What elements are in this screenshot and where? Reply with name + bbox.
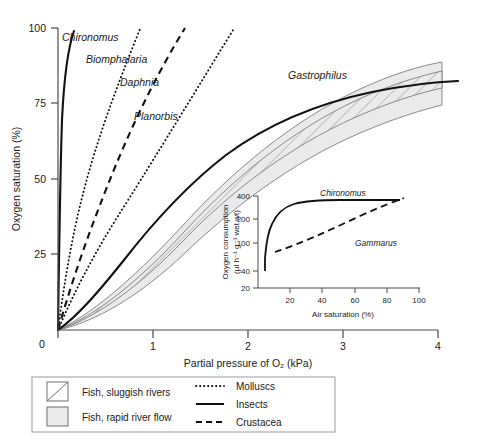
main-x-axis-label: Partial pressure of O₂ (kPa) (184, 357, 312, 369)
legend-swatch-fish-rapid (47, 407, 68, 426)
inset-curve-label-chironomus: Chironomus (320, 188, 367, 198)
inset-y-label-20: 20 (241, 284, 250, 293)
x-tick-label-4: 4 (435, 340, 441, 352)
curve-label-biomphalaria: Biomphalaria (86, 53, 147, 65)
inset-x-axis-label: Air saturation (%) (312, 310, 374, 319)
inset-x-label-100: 100 (412, 296, 426, 305)
inset-x-label-60: 60 (351, 296, 360, 305)
inset-y-label-40: 40 (241, 267, 250, 276)
x-tick-label-0: 0 (39, 338, 45, 350)
inset-y-label-400: 400 (237, 192, 251, 201)
inset-x-label-20: 20 (286, 296, 295, 305)
curve-label-gastrophilus: Gastrophilus (288, 69, 348, 81)
curve-label-chironomus: Chironomus (62, 31, 119, 43)
legend-label-crustacea: Crustacea (236, 417, 282, 428)
y-tick-label-75: 75 (34, 97, 46, 109)
y-tick-label-25: 25 (34, 248, 46, 260)
y-tick-label-50: 50 (34, 173, 46, 185)
x-tick-label-1: 1 (150, 340, 156, 352)
figure-root: 100 75 50 25 0 1 2 3 4 Partial pressure … (0, 0, 478, 443)
x-tick-label-2: 2 (245, 340, 251, 352)
inset-curve-label-gammarus: Gammarus (355, 238, 398, 248)
x-tick-label-3: 3 (340, 340, 346, 352)
inset-y-axis-label-line2: (μl h⁻¹ g⁻¹ wet wt) (232, 210, 241, 274)
oxygen-dissociation-figure: 100 75 50 25 0 1 2 3 4 Partial pressure … (0, 0, 478, 443)
legend-label-molluscs: Molluscs (236, 381, 275, 392)
inset-y-axis-label-line1: Oxygen consumption (221, 204, 230, 279)
legend-label-fish-sluggish: Fish, sluggish rivers (82, 387, 170, 398)
curve-label-planorbis: Planorbis (134, 110, 179, 122)
legend-label-insects: Insects (236, 399, 268, 410)
curve-label-daphnia: Daphnia (120, 76, 159, 88)
y-tick-label-100: 100 (28, 22, 46, 34)
inset-x-label-40: 40 (318, 296, 327, 305)
inset-x-label-80: 80 (383, 296, 392, 305)
legend-label-fish-rapid: Fish, rapid river flow (82, 412, 172, 423)
main-y-axis-label: Oxygen saturation (%) (10, 127, 22, 231)
